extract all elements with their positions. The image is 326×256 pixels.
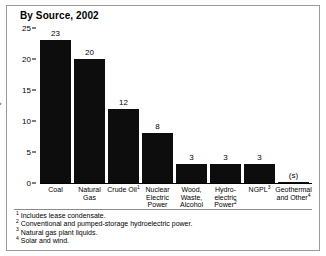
x-category-label: NaturalGas	[71, 186, 109, 201]
footnote-text: Conventional and pumped-storage hydroele…	[21, 220, 193, 227]
bar	[108, 109, 139, 183]
y-tick-mark	[32, 183, 36, 184]
footnote-text: Solar and wind.	[21, 237, 69, 244]
bar	[244, 164, 275, 183]
bar	[142, 133, 173, 183]
bar-value-label: (s)	[278, 171, 309, 180]
bar	[74, 59, 105, 183]
x-axis-category-labels: CoalNaturalGasCrude Oil1NuclearElectricP…	[40, 186, 312, 208]
y-axis-label: Quadrillion Btu	[0, 56, 1, 108]
bar-value-label: 12	[108, 98, 139, 107]
y-tick-label: 15	[22, 86, 31, 95]
footnote: 4Solar and wind.	[16, 237, 306, 245]
bar-value-label: 23	[40, 29, 71, 38]
x-axis-line	[40, 183, 312, 184]
y-tick-mark	[32, 59, 36, 60]
bar-value-label: 3	[244, 153, 275, 162]
bar-value-label: 8	[142, 122, 173, 131]
x-category-label: Coal	[37, 186, 75, 194]
y-tick-10: 10	[22, 117, 36, 126]
footnote-marker: 1	[16, 210, 19, 216]
chart-figure: By Source, 2002 0510152025 Quadrillion B…	[0, 0, 326, 256]
x-category-label: NuclearElectricPower	[139, 186, 177, 209]
y-tick-15: 15	[22, 86, 36, 95]
y-tick-25: 25	[22, 24, 36, 33]
x-category-label: Hydro-electricPower2	[207, 186, 245, 209]
y-tick-label: 25	[22, 24, 31, 33]
y-tick-label: 20	[22, 55, 31, 64]
footnote: 3Natural gas plant liquids.	[16, 229, 306, 237]
y-tick-label: 10	[22, 117, 31, 126]
y-tick-5: 5	[27, 148, 36, 157]
footnote-marker: 3	[16, 226, 19, 232]
bar-series: 2320128333(s)	[40, 28, 312, 183]
bar-value-label: 3	[210, 153, 241, 162]
x-category-label: Geothermaland Other4	[275, 186, 313, 201]
x-category-label: Wood,Waste,Alcohol	[173, 186, 211, 209]
y-tick-mark	[32, 90, 36, 91]
footnote: 2Conventional and pumped-storage hydroel…	[16, 220, 306, 228]
footnote-divider	[14, 209, 312, 210]
footnote-marker: 2	[16, 218, 19, 224]
bar-value-label: 3	[176, 153, 207, 162]
footnote-marker: 4	[16, 235, 19, 241]
y-tick-mark	[32, 121, 36, 122]
footnote-text: Natural gas plant liquids.	[21, 229, 98, 236]
y-tick-mark	[32, 28, 36, 29]
footnote-text: Includes lease condensate.	[21, 212, 106, 219]
y-tick-label: 5	[27, 148, 31, 157]
bar	[176, 164, 207, 183]
bar-value-label: 20	[74, 48, 105, 57]
bar	[278, 182, 309, 184]
footnote-list: 1Includes lease condensate.2Conventional…	[16, 212, 306, 246]
bar	[40, 40, 71, 183]
y-tick-label: 0	[27, 179, 31, 188]
y-tick-20: 20	[22, 55, 36, 64]
y-tick-0: 0	[27, 179, 36, 188]
y-tick-mark	[32, 152, 36, 153]
x-category-label: Crude Oil1	[105, 186, 143, 194]
bar	[210, 164, 241, 183]
x-category-label: NGPL3	[241, 186, 279, 194]
